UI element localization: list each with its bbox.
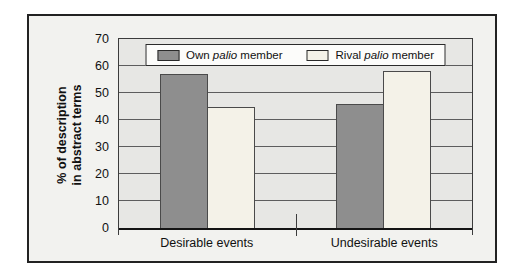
bar-rival-palio xyxy=(207,107,255,229)
bar-group xyxy=(296,39,473,228)
y-tick-label: 0 xyxy=(57,221,109,235)
legend-label-rival: Rival palio member xyxy=(336,49,434,61)
x-axis-tick xyxy=(296,214,297,236)
category-labels: Desirable events Undesirable events xyxy=(118,236,473,250)
category-label-desirable: Desirable events xyxy=(118,236,296,250)
legend-label-rival-suffix: member xyxy=(389,49,434,61)
page: % of description in abstract terms 01020… xyxy=(0,0,523,279)
legend-label-own-italic: palio xyxy=(213,49,237,61)
legend-swatch-own xyxy=(157,50,179,61)
y-tick-label: 30 xyxy=(57,140,109,154)
plot-area: Own palio member Rival palio member xyxy=(118,38,473,230)
bar-rival-palio xyxy=(383,71,431,228)
legend-entry-own-palio: Own palio member xyxy=(157,49,283,61)
chart-figure: % of description in abstract terms 01020… xyxy=(27,14,497,263)
bar-own-palio xyxy=(160,74,208,228)
legend-label-rival-italic: palio xyxy=(364,49,388,61)
category-label-undesirable: Undesirable events xyxy=(296,236,474,250)
legend: Own palio member Rival palio member xyxy=(145,44,446,66)
x-axis-tick xyxy=(118,228,119,235)
legend-entry-rival-palio: Rival palio member xyxy=(307,49,434,61)
y-tick-label: 20 xyxy=(57,167,109,181)
bars xyxy=(119,39,472,228)
legend-swatch-rival xyxy=(307,50,329,61)
y-tick-label: 70 xyxy=(57,32,109,46)
y-tick-label: 10 xyxy=(57,194,109,208)
y-tick-label: 60 xyxy=(57,59,109,73)
x-axis-tick xyxy=(472,228,473,235)
bar-own-palio xyxy=(336,104,384,228)
legend-label-own: Own palio member xyxy=(186,49,283,61)
y-tick-label: 50 xyxy=(57,86,109,100)
legend-label-rival-prefix: Rival xyxy=(336,49,365,61)
bar-group xyxy=(119,39,296,228)
legend-label-own-prefix: Own xyxy=(186,49,213,61)
y-tick-label: 40 xyxy=(57,113,109,127)
legend-label-own-suffix: member xyxy=(237,49,282,61)
